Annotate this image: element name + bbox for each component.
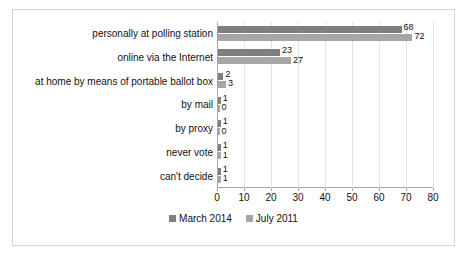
x-axis-tick-labels: 01020304050607080 — [217, 190, 434, 204]
bar-value-label: 1 — [223, 151, 228, 160]
bar — [218, 128, 220, 135]
x-axis-tick-label: 60 — [373, 192, 384, 203]
x-axis-tick-label: 0 — [214, 192, 220, 203]
bar-value-label: 23 — [282, 46, 292, 55]
category-label: online via the Internet — [117, 46, 213, 70]
bar — [218, 81, 226, 88]
bar-value-label: 3 — [228, 79, 233, 88]
bar-value-label: 1 — [223, 141, 228, 150]
category-label: personally at polling station — [92, 22, 213, 46]
x-axis-tick-mark — [271, 188, 272, 191]
category-axis-labels: personally at polling stationonline via … — [27, 22, 213, 188]
legend-label: July 2011 — [256, 213, 298, 224]
bar-group: 2327 — [217, 46, 434, 70]
x-axis-tick-label: 70 — [400, 192, 411, 203]
legend-item[interactable]: March 2014 — [169, 213, 232, 224]
bar-value-label: 72 — [414, 32, 424, 41]
x-axis-tick-label: 20 — [265, 192, 276, 203]
bar — [218, 168, 221, 175]
bar-group: 10 — [217, 117, 434, 141]
category-label: never vote — [166, 141, 213, 165]
x-axis-tick-mark — [406, 188, 407, 191]
bar — [218, 152, 221, 159]
bar-value-label: 68 — [404, 23, 414, 32]
bar-value-label: 1 — [223, 174, 228, 183]
x-axis-tick-mark — [325, 188, 326, 191]
bar-group: 10 — [217, 93, 434, 117]
legend-swatch-icon — [246, 215, 253, 222]
chart-legend: March 2014July 2011 — [13, 213, 454, 224]
bar-value-label: 1 — [223, 117, 228, 126]
bar-group: 11 — [217, 164, 434, 188]
bar-value-label: 0 — [222, 103, 227, 112]
plot-area: 687223272310101111 — [217, 22, 434, 188]
category-label: by proxy — [175, 117, 213, 141]
x-axis-tick-mark — [298, 188, 299, 191]
x-axis-tick-label: 40 — [319, 192, 330, 203]
bar-value-label: 27 — [293, 56, 303, 65]
x-axis-tick-label: 80 — [427, 192, 438, 203]
bar-value-label: 0 — [222, 127, 227, 136]
bar — [218, 176, 221, 183]
category-label: can't decide — [160, 164, 213, 188]
bar — [218, 120, 221, 127]
x-axis-tick-label: 50 — [346, 192, 357, 203]
category-label: by mail — [181, 93, 213, 117]
legend-swatch-icon — [169, 215, 176, 222]
legend-label: March 2014 — [179, 213, 232, 224]
bar — [218, 105, 220, 112]
bar — [218, 144, 221, 151]
chart-frame: personally at polling stationonline via … — [12, 9, 455, 246]
x-axis-tick-mark — [352, 188, 353, 191]
x-axis-tick-label: 10 — [238, 192, 249, 203]
category-label: at home by means of portable ballot box — [35, 69, 213, 93]
bar — [218, 73, 223, 80]
bar-group: 6872 — [217, 22, 434, 46]
bar-group: 23 — [217, 69, 434, 93]
x-axis-tick-mark — [433, 188, 434, 191]
x-axis-tick-label: 30 — [292, 192, 303, 203]
x-axis-tick-mark — [244, 188, 245, 191]
bar-group: 11 — [217, 141, 434, 165]
bar — [218, 26, 402, 33]
x-axis-tick-mark — [379, 188, 380, 191]
bar — [218, 57, 291, 64]
x-axis-tick-mark — [217, 188, 218, 191]
legend-item[interactable]: July 2011 — [246, 213, 298, 224]
bar — [218, 97, 221, 104]
bar — [218, 34, 412, 41]
bar — [218, 49, 280, 56]
